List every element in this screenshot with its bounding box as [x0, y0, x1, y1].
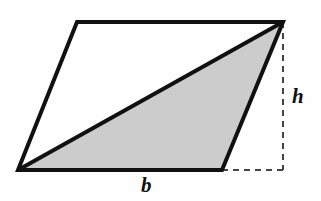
parallelogram-diagram-canvas — [0, 0, 321, 201]
base-label: b — [141, 175, 152, 196]
height-label: h — [292, 86, 304, 107]
geometry-figure: h b — [0, 0, 321, 201]
